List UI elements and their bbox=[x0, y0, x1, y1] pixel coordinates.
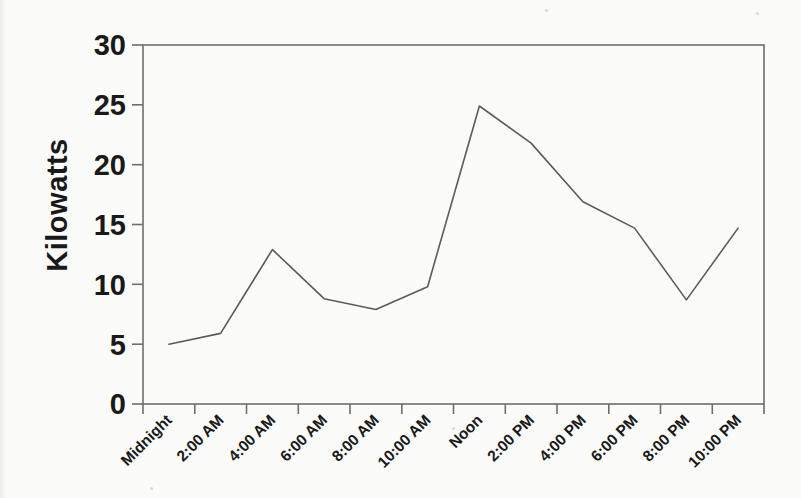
scan-speck bbox=[545, 9, 548, 12]
plot-frame bbox=[143, 45, 764, 404]
scan-speck bbox=[756, 12, 759, 15]
kilowatts-usage-line-chart: 051015202530Midnight2:00 AM4:00 AM6:00 A… bbox=[0, 0, 801, 498]
x-tick-label: 2:00 AM bbox=[173, 411, 227, 465]
y-axis-title: Kilowatts bbox=[41, 138, 74, 271]
y-tick-label: 5 bbox=[110, 329, 126, 361]
x-tick-label: 6:00 PM bbox=[587, 411, 640, 464]
x-tick-label: 4:00 PM bbox=[536, 411, 589, 464]
data-line-kilowatts bbox=[169, 106, 738, 344]
scan-edge-shadow bbox=[0, 0, 6, 498]
chart-canvas: 051015202530Midnight2:00 AM4:00 AM6:00 A… bbox=[0, 0, 801, 498]
y-tick-label: 20 bbox=[94, 149, 126, 181]
x-tick-label: 6:00 AM bbox=[277, 411, 331, 465]
x-tick-label: 8:00 PM bbox=[639, 411, 692, 464]
scan-speck bbox=[452, 427, 455, 430]
y-tick-label: 25 bbox=[94, 89, 126, 121]
x-tick-label: 10:00 PM bbox=[685, 411, 745, 471]
x-tick-label: 2:00 PM bbox=[484, 411, 537, 464]
y-tick-label: 30 bbox=[94, 29, 126, 61]
y-tick-label: 0 bbox=[110, 388, 126, 420]
x-tick-label: Noon bbox=[445, 411, 485, 451]
scan-speck bbox=[150, 487, 153, 490]
y-tick-label: 10 bbox=[94, 269, 126, 301]
x-tick-label: 10:00 AM bbox=[374, 411, 434, 471]
x-tick-label: 8:00 AM bbox=[328, 411, 382, 465]
y-tick-label: 15 bbox=[94, 209, 126, 241]
x-tick-label: 4:00 AM bbox=[225, 411, 279, 465]
